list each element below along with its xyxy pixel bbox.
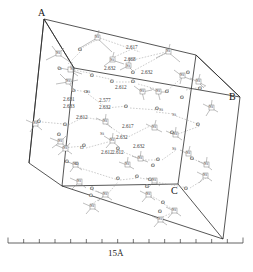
atom-label-si: Si (63, 145, 67, 150)
atom-label-si: Si (180, 72, 184, 77)
crystal-structure-figure: SiOSiSiOSiOSiSiOSiOSiOSiOOOSiOSiSiOOSiOO… (0, 0, 253, 272)
atom-label-o: O (196, 122, 200, 127)
atom-label-si: Si (196, 78, 200, 83)
distance-label: 2.632 (104, 66, 116, 71)
atom-label-si: Si (110, 57, 114, 62)
atom-label-si: Si (66, 78, 70, 83)
scale-bar (8, 238, 243, 244)
corner-label-c: C (171, 186, 178, 196)
atom-label-o: O (75, 161, 79, 166)
atom-label-si: Si (158, 216, 162, 221)
atom-label-o: O (78, 47, 82, 52)
atom-label-o: O (90, 73, 94, 78)
corner-label-a: A (38, 8, 45, 18)
atom-label-o: O (190, 156, 194, 161)
distance-label: 2.632 (116, 135, 128, 140)
distance-label: 2.668 (124, 57, 136, 62)
atom-label-o: O (89, 193, 93, 198)
atom-label-si: Si (209, 104, 213, 109)
atom-label-si: Si (152, 124, 156, 129)
atom-label-o: O (57, 132, 61, 137)
distance-label: 2.633 (63, 104, 75, 109)
distance-label: 2.632 (141, 70, 153, 75)
distance-label: 2.632 (133, 144, 145, 149)
atom-label-si: Si (103, 191, 107, 196)
distance-label: 2.612 (112, 150, 124, 155)
atom-label-o: O (110, 79, 114, 84)
distance-label: 2.617 (122, 124, 134, 129)
atom-label-si: Si (33, 120, 37, 125)
atom-label-o: O (84, 89, 88, 94)
atom-label-si: Si (156, 88, 160, 93)
atom-label-o: O (72, 88, 76, 93)
atom-label-si: Si (203, 172, 207, 177)
atom-label-si: Si (146, 191, 150, 196)
atom-label-si: Si (110, 137, 114, 142)
atom-label-si: Si (204, 161, 208, 166)
atom-label-si: Si (103, 118, 107, 123)
atom-label-o: O (63, 122, 67, 127)
atom-label-o: O (37, 119, 41, 124)
atom-label-o: O (158, 209, 162, 214)
atom-label-o: O (161, 200, 165, 205)
atom-label-o: O (156, 157, 160, 162)
atom-label-si: Si (100, 131, 104, 136)
atom-label-si: Si (172, 207, 176, 212)
atom-label-si: Si (90, 203, 94, 208)
atom-label-o: O (80, 145, 84, 150)
atom-label-si: Si (140, 88, 144, 93)
distance-label: 2.632 (99, 105, 111, 110)
atom-label-si: Si (126, 63, 130, 68)
atom-label-o: O (198, 86, 202, 91)
distance-label: 2.612 (115, 85, 127, 90)
atom-label-o: O (165, 89, 169, 94)
atom-label-o: O (180, 95, 184, 100)
atom-label-o: O (58, 66, 62, 71)
atom-label-o: O (151, 163, 155, 168)
atom-label-si: Si (166, 48, 170, 53)
atom-label-si: Si (159, 107, 163, 112)
atom-label-si: Si (172, 146, 176, 151)
atom-label-si: Si (172, 112, 176, 117)
atom-label-si: Si (56, 50, 60, 55)
atom-label-si: Si (125, 161, 129, 166)
atom-label-o: O (131, 70, 135, 75)
distance-label: 2.631 (63, 97, 75, 102)
atom-label-si: Si (186, 150, 190, 155)
atom-label-o: O (184, 186, 188, 191)
atom-label-o: O (131, 79, 135, 84)
atom-label-o: O (186, 70, 190, 75)
atom-label-o: O (116, 176, 120, 181)
distance-label: 2.612 (101, 150, 113, 155)
scale-bar-label: 15Å (108, 249, 124, 258)
atom-label-o: O (135, 174, 139, 179)
corner-label-b: B (229, 92, 236, 102)
distance-label: 2.617 (126, 45, 138, 50)
atom-label-si: Si (58, 138, 62, 143)
atom-label-o: O (65, 159, 69, 164)
atom-label-si: Si (95, 34, 99, 39)
atom-label-si: Si (77, 178, 81, 183)
distance-label: 2.577 (99, 98, 111, 103)
atom-label-si: Si (152, 177, 156, 182)
atom-label-si: Si (70, 66, 74, 71)
distance-label: 2.612 (76, 115, 88, 120)
atom-label-o: O (124, 104, 128, 109)
atom-label-o: O (145, 184, 149, 189)
atom-label-o: O (90, 186, 94, 191)
atom-label-si: Si (138, 155, 142, 160)
atom-label-si: Si (173, 131, 177, 136)
